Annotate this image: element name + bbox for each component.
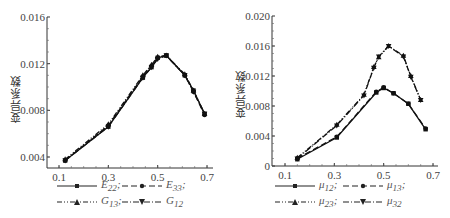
legend-item-mu12: μ12; xyxy=(275,178,337,193)
y-tick-label: 0.004 xyxy=(20,151,45,163)
legend-line-dashdotdot-icon xyxy=(275,198,315,206)
y-tick-label: 0.020 xyxy=(245,10,270,22)
legend-item-e22: E22; xyxy=(57,178,121,193)
chart-right: 00.0040.0080.0120.0160.0200.10.30.50.7 变… xyxy=(225,0,450,218)
legend-item-mu23: μ23; xyxy=(275,194,337,209)
legend-line-dashdot-icon xyxy=(122,198,162,206)
x-tick-label: 0.7 xyxy=(426,169,440,181)
chart-left: 0.0040.0080.0120.0160.10.30.50.7 变异系数 E2… xyxy=(0,0,225,218)
y-tick-label: 0.008 xyxy=(245,100,270,112)
legend-line-dashed-icon xyxy=(343,182,383,190)
y-tick-label: 0.004 xyxy=(245,130,270,142)
legend-label-e22: E22; xyxy=(101,178,121,193)
y-axis-label-right: 变异系数 xyxy=(233,70,249,118)
legend-label-mu32: μ32 xyxy=(387,194,402,209)
legend-label-e33: E33; xyxy=(166,178,186,193)
legend-label-mu23: μ23; xyxy=(319,194,337,209)
y-tick-label: 0 xyxy=(265,160,271,172)
legend-item-e33: E33; xyxy=(122,178,186,193)
legend-item-g13: G13; xyxy=(57,194,122,209)
legend-item-g12: G12 xyxy=(122,194,183,209)
series-line xyxy=(62,53,207,163)
series-line xyxy=(63,53,207,162)
legend-label-mu13: μ13; xyxy=(387,178,405,193)
series-line xyxy=(295,44,424,162)
legend-line-solid-icon xyxy=(57,182,97,190)
legend-label-g12: G12 xyxy=(166,194,183,209)
y-tick-label: 0.016 xyxy=(245,40,270,52)
legend-item-mu32: μ32 xyxy=(343,194,402,209)
y-tick-label: 0.008 xyxy=(20,104,45,116)
y-tick-label: 0.012 xyxy=(20,58,45,70)
legend-item-mu13: μ13; xyxy=(343,178,405,193)
x-tick-label: 0.7 xyxy=(200,171,214,183)
plot-area-right: 00.0040.0080.0120.0160.0200.10.30.50.7 xyxy=(225,0,450,218)
legend-label-mu12: μ12; xyxy=(319,178,337,193)
legend-line-solid-icon xyxy=(275,182,315,190)
y-axis-label-left: 变异系数 xyxy=(8,75,24,123)
legend-label-g13: G13; xyxy=(101,194,122,209)
legend-line-dashed-icon xyxy=(122,182,162,190)
legend-line-dashdot-icon xyxy=(343,198,383,206)
legend-line-dashdotdot-icon xyxy=(57,198,97,206)
series-line xyxy=(63,53,207,163)
y-tick-label: 0.016 xyxy=(20,11,45,23)
